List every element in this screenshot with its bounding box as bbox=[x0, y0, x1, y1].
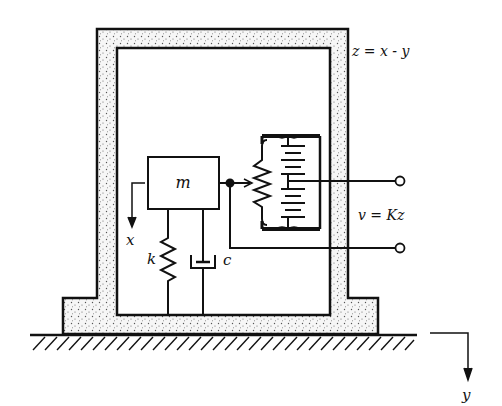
mass-label: m bbox=[175, 173, 190, 192]
x-displacement-arrow bbox=[128, 183, 145, 227]
spring bbox=[161, 209, 175, 315]
mass-block: m bbox=[148, 157, 219, 209]
accelerometer-diagram: m k c x bbox=[0, 0, 502, 406]
terminal-bottom bbox=[396, 244, 405, 253]
relative-displacement-equation: z = x - y bbox=[351, 43, 411, 59]
terminal-top bbox=[396, 177, 405, 186]
ground bbox=[30, 335, 417, 350]
damper-label: c bbox=[223, 251, 232, 269]
voltage-equation: v = Kz bbox=[358, 207, 405, 223]
spring-label: k bbox=[147, 250, 156, 268]
y-displacement-arrow bbox=[430, 333, 472, 380]
y-label: y bbox=[461, 386, 471, 404]
damper bbox=[191, 209, 215, 315]
x-label: x bbox=[126, 231, 135, 249]
battery bbox=[281, 136, 305, 229]
